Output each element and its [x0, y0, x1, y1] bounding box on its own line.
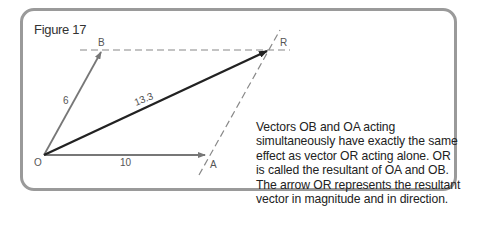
- magnitude-label-oa: 10: [120, 157, 132, 168]
- figure-caption: Vectors OB and OA acting simultaneously …: [256, 120, 461, 206]
- magnitude-label-ob: 6: [63, 95, 69, 106]
- point-label-r: R: [280, 37, 287, 48]
- point-label-o: O: [34, 157, 42, 168]
- vector-ob: [44, 52, 101, 155]
- point-label-a: A: [210, 159, 217, 170]
- point-label-b: B: [98, 37, 105, 48]
- vector-or-resultant: [44, 51, 267, 155]
